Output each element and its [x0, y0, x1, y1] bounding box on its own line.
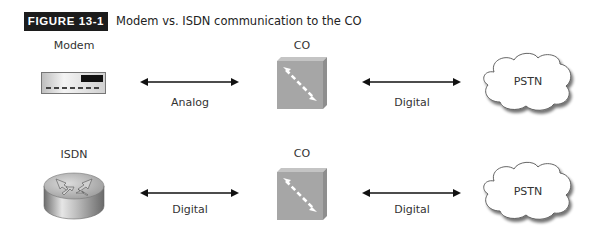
modem-label: Modem: [44, 39, 104, 53]
co-label-1: CO: [282, 39, 322, 53]
co-label-2: CO: [282, 147, 322, 161]
pstn-label-1: PSTN: [498, 75, 558, 89]
digital-link-label-1: Digital: [372, 96, 452, 110]
modem-icon: [41, 72, 107, 95]
pstn-label-2: PSTN: [498, 185, 558, 199]
analog-link-label: Analog: [150, 96, 230, 110]
digital-link-label-2: Digital: [372, 203, 452, 217]
isdn-link-arrow: [140, 188, 240, 198]
switch-icon: [277, 57, 327, 109]
digital-link-arrow-1: [362, 77, 462, 87]
analog-link-arrow: [140, 77, 240, 87]
isdn-link-label: Digital: [150, 203, 230, 217]
figure-label: FIGURE 13-1: [24, 12, 108, 31]
switch-icon: [277, 168, 327, 220]
isdn-label: ISDN: [44, 148, 104, 162]
figure-caption: Modem vs. ISDN communication to the CO: [116, 13, 362, 29]
digital-link-arrow-2: [362, 188, 462, 198]
router-icon: [42, 168, 106, 222]
